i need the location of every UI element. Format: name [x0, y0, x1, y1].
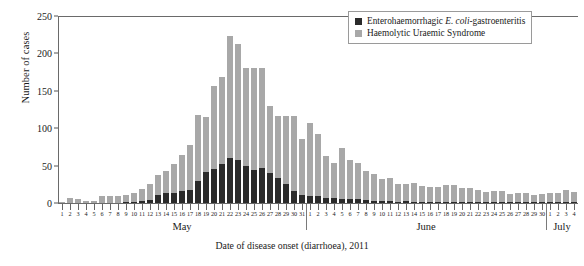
bar-segment-ehec — [451, 202, 457, 203]
bar-segment-ehec — [227, 158, 233, 203]
bar-segment-hus — [259, 68, 265, 168]
bar-segment-hus — [435, 187, 441, 202]
bar-segment-hus — [155, 175, 161, 195]
bar-segment-hus — [395, 184, 401, 201]
bar-column — [235, 44, 241, 203]
bar-segment-hus — [67, 198, 73, 203]
bar-segment-hus — [451, 185, 457, 201]
bar-segment-ehec — [475, 202, 481, 203]
bar-column — [123, 195, 129, 203]
bar-column — [483, 192, 489, 203]
bar-column — [411, 183, 417, 203]
bar-column — [163, 171, 169, 203]
bar-column — [75, 199, 81, 203]
legend-label-ehec-pre: Enterohaemorrhagic — [367, 16, 445, 26]
bar-column — [515, 193, 521, 203]
bar-column — [491, 191, 497, 203]
bar-segment-ehec — [243, 166, 249, 203]
bar-segment-ehec — [419, 202, 425, 203]
bar-segment-ehec — [131, 202, 137, 203]
bar-column — [435, 187, 441, 203]
bar-segment-ehec — [267, 173, 273, 203]
x-axis-month-label: June — [416, 221, 435, 232]
bar-segment-ehec — [555, 202, 561, 203]
bar-segment-ehec — [547, 202, 553, 203]
bar-segment-ehec — [483, 202, 489, 203]
bar-segment-hus — [99, 196, 105, 203]
bar-segment-hus — [59, 202, 65, 203]
bar-column — [387, 178, 393, 203]
bar-segment-hus — [491, 191, 497, 202]
bar-column — [371, 174, 377, 203]
bar-segment-hus — [443, 185, 449, 202]
bar-segment-ehec — [259, 168, 265, 203]
bar-segment-ehec — [459, 202, 465, 203]
bar-segment-hus — [91, 201, 97, 203]
bar-segment-hus — [291, 116, 297, 191]
bar-segment-ehec — [163, 193, 169, 203]
bar-segment-hus — [371, 174, 377, 201]
bar-column — [539, 194, 545, 203]
bar-column — [211, 86, 217, 203]
bar-column — [171, 164, 177, 203]
bar-segment-hus — [547, 193, 553, 203]
legend-label-ehec-italic: E. coli — [445, 16, 469, 26]
legend-label-hus: Haemolytic Uraemic Syndrome — [367, 28, 485, 39]
bar-column — [139, 189, 145, 203]
bar-column — [283, 115, 289, 203]
y-axis-tick-label: 100 — [4, 123, 52, 134]
bar-column — [523, 193, 529, 203]
bar-segment-hus — [163, 171, 169, 193]
bar-segment-ehec — [187, 190, 193, 203]
bar-column — [323, 156, 329, 203]
bar-column — [299, 139, 305, 203]
bar-segment-ehec — [499, 202, 505, 203]
bar-segment-hus — [499, 191, 505, 202]
bar-segment-ehec — [179, 191, 185, 203]
bar-segment-ehec — [363, 200, 369, 203]
bar-segment-hus — [75, 199, 81, 203]
bar-segment-hus — [275, 116, 281, 178]
legend-label-ehec: Enterohaemorrhagic E. coli-gastroenterit… — [367, 16, 525, 27]
bar-segment-ehec — [539, 202, 545, 203]
bar-segment-hus — [147, 184, 153, 200]
bar-column — [251, 68, 257, 203]
bar-column — [419, 186, 425, 203]
bar-column — [203, 117, 209, 203]
bar-segment-hus — [187, 145, 193, 191]
bar-column — [107, 196, 113, 203]
bar-segment-hus — [483, 192, 489, 202]
bar-segment-hus — [179, 155, 185, 191]
bar-segment-ehec — [347, 199, 353, 203]
bar-column — [91, 201, 97, 203]
bar-segment-ehec — [307, 196, 313, 203]
bar-column — [195, 115, 201, 203]
bar-segment-hus — [315, 134, 321, 196]
bar-segment-hus — [427, 187, 433, 201]
bar-segment-ehec — [443, 202, 449, 203]
bar-segment-ehec — [355, 199, 361, 203]
bar-column — [83, 201, 89, 203]
bar-column — [99, 196, 105, 203]
bar-segment-hus — [339, 148, 345, 199]
bar-segment-ehec — [531, 202, 537, 203]
bar-column — [147, 184, 153, 203]
bar-segment-hus — [243, 68, 249, 167]
bar-column — [427, 187, 433, 203]
bar-column — [403, 184, 409, 203]
bar-segment-hus — [475, 190, 481, 202]
bar-segment-ehec — [379, 201, 385, 203]
bar-column — [379, 179, 385, 203]
bar-segment-ehec — [275, 178, 281, 203]
bar-segment-ehec — [323, 198, 329, 203]
bar-segment-ehec — [283, 184, 289, 203]
bar-segment-ehec — [491, 202, 497, 203]
bar-segment-ehec — [147, 200, 153, 203]
bar-segment-hus — [195, 115, 201, 181]
bar-segment-ehec — [411, 202, 417, 203]
bar-column — [355, 163, 361, 203]
bar-column — [475, 190, 481, 203]
bar-segment-hus — [419, 186, 425, 202]
chart-legend: Enterohaemorrhagic E. coli-gastroenterit… — [348, 11, 532, 44]
bar-segment-hus — [115, 196, 121, 203]
